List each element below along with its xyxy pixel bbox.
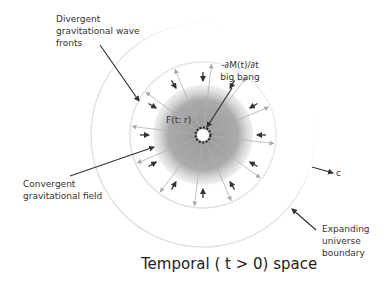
- diagram-canvas: Divergent gravitational wave fronts -∂M(…: [0, 0, 392, 281]
- inward-field-arrow: [148, 104, 156, 109]
- field-label: F(t: r): [166, 114, 191, 126]
- inward-field-arrow: [250, 104, 258, 109]
- big-bang-label: -∂M(t)/∂t big bang: [212, 59, 268, 83]
- divergent-pointer-arrow: [100, 45, 139, 101]
- convergent-field-label: Convergent gravitational field: [23, 178, 102, 202]
- inward-field-arrow: [250, 162, 258, 167]
- inward-field-arrow: [172, 80, 177, 88]
- inward-field-arrow: [172, 182, 177, 190]
- boundary-pointer-arrow: [292, 209, 316, 230]
- c-arrow: [312, 167, 333, 173]
- inward-field-arrow: [148, 162, 156, 167]
- inward-field-arrow: [230, 182, 235, 190]
- diagram-title: Temporal ( t > 0) space: [141, 255, 317, 273]
- divergent-wave-fronts-label: Divergent gravitational wave fronts: [56, 13, 140, 49]
- expanding-boundary-label: Expanding universe boundary: [322, 223, 370, 259]
- speed-of-light-label: c: [336, 167, 341, 179]
